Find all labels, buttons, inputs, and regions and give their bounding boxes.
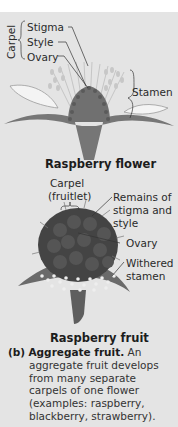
remains-label-line1: Remains of — [113, 191, 171, 203]
fruit-ovary-label: Ovary — [126, 237, 157, 249]
fruitlet-carpel-label-line1: Carpel — [50, 177, 84, 189]
caption-heading: Aggregate fruit. — [28, 346, 124, 358]
fruit-title: Raspberry fruit — [50, 331, 149, 345]
raspberry-fruit-illustration — [0, 0, 178, 340]
figure-caption: (b) Aggregate fruit. An aggregate fruit … — [8, 346, 176, 423]
remains-label-line3: style — [113, 217, 138, 229]
caption-first-line-rest: An — [128, 346, 142, 358]
caption-line: aggregate fruit develops — [8, 359, 176, 372]
caption-line: from many separate — [8, 372, 176, 385]
fruitlet-carpel-label-line2: (fruitlet) — [48, 190, 91, 202]
caption-line: (examples: raspberry, — [8, 397, 176, 410]
caption-line: carpels of one flower — [8, 384, 176, 397]
withered-label-line1: Withered — [126, 257, 174, 269]
withered-label-line2: stamen — [126, 270, 165, 282]
remains-label-line2: stigma and — [113, 204, 172, 216]
caption-marker: (b) — [8, 346, 25, 358]
caption-line: blackberry, strawberry). — [8, 410, 176, 423]
